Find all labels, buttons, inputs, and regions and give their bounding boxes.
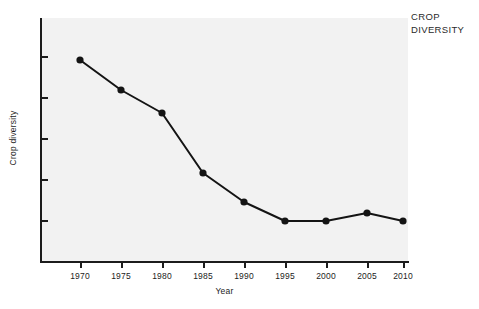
x-axis-tick-2010 — [403, 261, 405, 268]
x-axis-tick-1990 — [244, 261, 246, 268]
x-axis-tick-1975 — [121, 261, 123, 268]
x-axis-tick-1995 — [285, 261, 287, 268]
x-axis-tick-label-1980: 1980 — [142, 271, 182, 281]
y-axis-tick-2 — [40, 138, 48, 140]
x-axis-tick-label-2000: 2000 — [306, 271, 346, 281]
y-axis-line — [40, 18, 42, 263]
y-axis-tick-5 — [40, 261, 48, 263]
x-axis-tick-label-2005: 2005 — [347, 271, 387, 281]
x-axis-tick-label-1970: 1970 — [60, 271, 100, 281]
x-axis-tick-2005 — [367, 261, 369, 268]
x-axis-line — [40, 261, 409, 263]
x-axis-tick-label-1975: 1975 — [101, 271, 141, 281]
x-axis-tick-label-2010: 2010 — [383, 271, 423, 281]
x-axis-tick-label-1985: 1985 — [183, 271, 223, 281]
y-axis-tick-4 — [40, 220, 48, 222]
plot-area — [40, 18, 408, 262]
corner-annotation: CROP DIVERSITY — [411, 10, 477, 36]
y-axis-tick-0 — [40, 56, 48, 58]
x-axis-title: Year — [40, 286, 409, 296]
corner-annotation-line-1: CROP — [411, 10, 477, 23]
x-axis-tick-1980 — [162, 261, 164, 268]
corner-annotation-line-2: DIVERSITY — [411, 23, 477, 36]
y-axis-title: Crop diversity — [8, 78, 18, 198]
chart-figure: 197019751980198519901995200020052010 Yea… — [0, 0, 479, 309]
x-axis-tick-1985 — [203, 261, 205, 268]
x-axis-tick-2000 — [326, 261, 328, 268]
x-axis-tick-label-1995: 1995 — [265, 271, 305, 281]
x-axis-tick-1970 — [80, 261, 82, 268]
x-axis-tick-label-1990: 1990 — [224, 271, 264, 281]
y-axis-tick-3 — [40, 179, 48, 181]
y-axis-tick-1 — [40, 97, 48, 99]
